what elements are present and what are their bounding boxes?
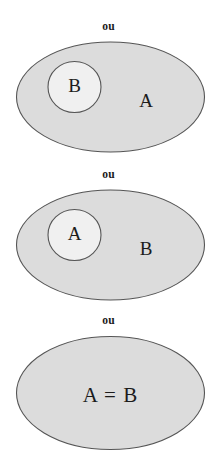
- venn-panel-3: ou A = B: [0, 314, 217, 452]
- venn-panel-1: ou B A: [0, 20, 217, 155]
- connector-label-1: ou: [0, 20, 217, 33]
- outer-set-label-2: B: [140, 238, 153, 259]
- venn-graphic-1: B A: [0, 41, 217, 155]
- venn-graphic-3: A = B: [0, 335, 217, 453]
- venn-graphic-2: A B: [0, 189, 217, 303]
- connector-label-3: ou: [0, 314, 217, 327]
- outer-set-ellipse-2: [17, 190, 205, 300]
- outer-set-label-1: A: [139, 90, 153, 111]
- venn-diagram-stack: ou B A ou A B ou A = B: [0, 0, 217, 455]
- equal-set-label-3: A = B: [83, 383, 138, 407]
- venn-panel-2: ou A B: [0, 168, 217, 303]
- inner-set-label-1: B: [68, 75, 81, 96]
- connector-label-2: ou: [0, 168, 217, 181]
- outer-set-ellipse-1: [17, 42, 205, 152]
- inner-set-label-2: A: [68, 223, 82, 244]
